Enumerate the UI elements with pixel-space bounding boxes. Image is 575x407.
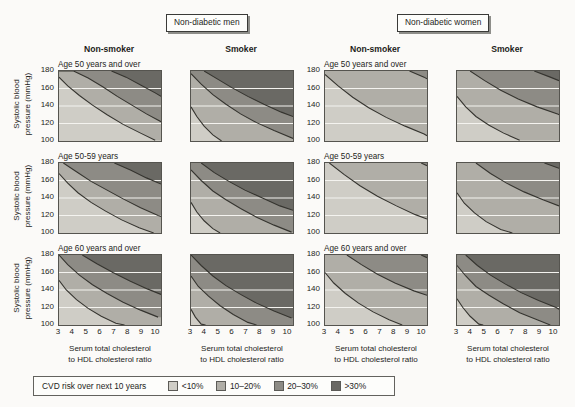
y-tick-label: 180 xyxy=(300,249,320,258)
y-tick-label: 160 xyxy=(300,83,320,92)
panel-title-men-row-1: Age 50-59 years xyxy=(58,152,118,161)
x-tick-label: 5 xyxy=(81,327,91,336)
x-tick-label: 6 xyxy=(361,327,371,336)
x-tick-label: 4 xyxy=(67,327,77,336)
y-tick-label: 100 xyxy=(300,319,320,328)
y-tick-label: 180 xyxy=(300,65,320,74)
x-tick-label: 7 xyxy=(240,327,250,336)
y-tick-label: 120 xyxy=(300,118,320,127)
legend-item: <10% xyxy=(168,381,203,391)
y-tick-label: 100 xyxy=(34,227,54,236)
panel-title-men-row-2: Age 60 years and over xyxy=(58,244,140,253)
x-axis-label-col-3: Serum total cholesterol to HDL cholester… xyxy=(448,344,568,365)
y-tick-label: 120 xyxy=(300,210,320,219)
legend-label: <10% xyxy=(182,381,204,391)
risk-panel xyxy=(58,254,162,326)
x-tick-label: 3 xyxy=(451,327,461,336)
risk-panel xyxy=(324,70,428,142)
x-tick-label: 5 xyxy=(479,327,489,336)
x-tick-label: 8 xyxy=(122,327,132,336)
y-tick-label: 180 xyxy=(300,157,320,166)
y-tick-label: 120 xyxy=(300,302,320,311)
column-header-men-smoker: Smoker xyxy=(190,44,292,54)
risk-panel xyxy=(456,162,560,234)
x-tick-label: 5 xyxy=(213,327,223,336)
risk-panel xyxy=(456,70,560,142)
x-axis-label-col-0: Serum total cholesterol to HDL cholester… xyxy=(50,344,170,365)
y-tick-label: 140 xyxy=(34,192,54,201)
y-tick-label: 180 xyxy=(34,65,54,74)
legend-label: >30% xyxy=(344,381,366,391)
x-tick-label: 6 xyxy=(493,327,503,336)
y-tick-label: 120 xyxy=(34,210,54,219)
risk-panel xyxy=(190,70,294,142)
x-tick-label: 9 xyxy=(534,327,544,336)
y-tick-label: 120 xyxy=(34,302,54,311)
legend-item: >30% xyxy=(331,381,366,391)
column-header-women-smoker: Smoker xyxy=(456,44,558,54)
legend-swatch xyxy=(331,381,341,391)
y-axis-label-line1: Systolic blood xyxy=(12,263,21,312)
x-tick-label: 8 xyxy=(254,327,264,336)
x-tick-label: 8 xyxy=(520,327,530,336)
legend-swatch xyxy=(274,381,284,391)
x-tick-label: 9 xyxy=(402,327,412,336)
x-tick-label: 10 xyxy=(416,327,426,336)
x-tick-label: 4 xyxy=(333,327,343,336)
x-tick-label: 6 xyxy=(95,327,105,336)
group-title-men: Non-diabetic men xyxy=(166,14,248,32)
x-axis-label-line2: to HDL cholesterol ratio xyxy=(334,355,417,364)
y-tick-label: 140 xyxy=(300,192,320,201)
x-axis-label-line1: Serum total cholesterol xyxy=(201,344,283,353)
y-axis-label-line1: Systolic blood xyxy=(12,79,21,128)
x-tick-labels: 345678910 xyxy=(190,327,292,336)
legend-swatch xyxy=(216,381,226,391)
y-tick-label: 160 xyxy=(300,267,320,276)
y-tick-label: 160 xyxy=(34,267,54,276)
panel-title-men-row-0: Age 50 years and over xyxy=(58,60,140,69)
y-axis-label-line2: pressure (mmHg) xyxy=(23,73,32,135)
legend-title: CVD risk over next 10 years xyxy=(42,381,146,391)
risk-panel xyxy=(324,254,428,326)
y-tick-label: 120 xyxy=(34,118,54,127)
risk-panel xyxy=(324,162,428,234)
x-tick-labels: 345678910 xyxy=(58,327,160,336)
x-tick-label: 9 xyxy=(136,327,146,336)
y-axis-label-row-2: Systolic blood pressure (mmHg) xyxy=(12,252,33,324)
x-tick-label: 10 xyxy=(150,327,160,336)
y-axis-label-line2: pressure (mmHg) xyxy=(23,165,32,227)
y-tick-label: 140 xyxy=(34,284,54,293)
x-tick-label: 3 xyxy=(185,327,195,336)
x-axis-label-line1: Serum total cholesterol xyxy=(69,344,151,353)
x-tick-label: 7 xyxy=(374,327,384,336)
y-tick-label: 100 xyxy=(300,227,320,236)
legend-swatch xyxy=(168,381,178,391)
x-tick-label: 4 xyxy=(199,327,209,336)
panel-title-women-row-1: Age 50-59 years xyxy=(324,152,384,161)
legend-label: 10–20% xyxy=(230,381,261,391)
column-header-men-non-smoker: Non-smoker xyxy=(58,44,160,54)
y-tick-label: 100 xyxy=(300,135,320,144)
legend-item: 10–20% xyxy=(216,381,260,391)
risk-panel xyxy=(58,70,162,142)
panel-title-women-row-0: Age 50 years and over xyxy=(324,60,406,69)
y-tick-label: 180 xyxy=(34,249,54,258)
risk-panel xyxy=(190,254,294,326)
y-tick-label: 100 xyxy=(34,135,54,144)
panel-title-women-row-2: Age 60 years and over xyxy=(324,244,406,253)
x-tick-labels: 345678910 xyxy=(456,327,558,336)
x-tick-label: 8 xyxy=(388,327,398,336)
x-axis-label-line1: Serum total cholesterol xyxy=(467,344,549,353)
x-tick-label: 3 xyxy=(53,327,63,336)
y-axis-label-row-0: Systolic blood pressure (mmHg) xyxy=(12,68,33,140)
column-header-women-non-smoker: Non-smoker xyxy=(324,44,426,54)
x-tick-labels: 345678910 xyxy=(324,327,426,336)
y-axis-label-row-1: Systolic blood pressure (mmHg) xyxy=(12,160,33,232)
x-axis-label-line2: to HDL cholesterol ratio xyxy=(68,355,151,364)
x-axis-label-col-1: Serum total cholesterol to HDL cholester… xyxy=(182,344,302,365)
x-tick-label: 6 xyxy=(227,327,237,336)
y-axis-label-line2: pressure (mmHg) xyxy=(23,257,32,319)
y-tick-label: 140 xyxy=(300,284,320,293)
x-tick-label: 3 xyxy=(319,327,329,336)
x-tick-label: 9 xyxy=(268,327,278,336)
